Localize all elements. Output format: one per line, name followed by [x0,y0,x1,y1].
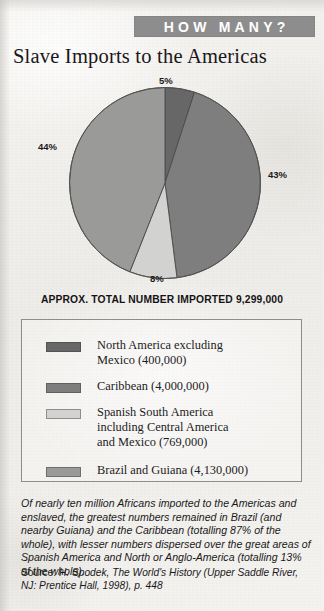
infographic-page: HOW MANY? Slave Imports to the Americas … [0,0,324,611]
legend-line-1: Caribbean (4,000,000) [97,379,209,393]
legend-box: North America excluding Mexico (400,000)… [21,319,302,482]
page-edge-shading-top [0,0,324,12]
legend-swatch-caribbean [46,383,81,393]
how-many-banner: HOW MANY? [134,16,315,37]
banner-label: HOW MANY? [160,20,290,34]
legend-item-north-america: North America excluding Mexico (400,000) [22,338,301,368]
legend-swatch-brazil-guiana [46,467,81,477]
pie-chart-figure: 5% 43% 8% 44% [0,70,324,290]
legend-line-1: Spanish South America [97,405,213,419]
legend-item-spanish-south-america: Spanish South America including Central … [22,405,301,450]
legend-line-3: and Mexico (769,000) [97,435,207,449]
legend-swatch-spanish-south-america [46,409,81,419]
pie-label-spanish-south-america: 8% [150,273,164,284]
legend-line-2: including Central America [97,420,228,434]
total-imported-line: APPROX. TOTAL NUMBER IMPORTED 9,299,000 [0,294,324,305]
legend-line-1: Brazil and Guiana (4,130,000) [97,463,248,477]
legend-swatch-north-america [46,342,81,352]
legend-line-2: Mexico (400,000) [97,353,186,367]
pie-chart-svg [68,86,262,280]
pie-label-brazil-guiana: 44% [38,141,57,152]
source-text: H. Spodek, The World's History (Upper Sa… [21,567,298,591]
page-title: Slave Imports to the Americas [13,45,267,68]
pie-label-north-america: 5% [159,75,173,86]
legend-label-caribbean: Caribbean (4,000,000) [97,379,209,394]
legend-line-1: North America excluding [97,338,223,352]
legend-label-north-america: North America excluding Mexico (400,000) [97,338,223,368]
source-label: Source: [21,567,56,578]
legend-label-brazil-guiana: Brazil and Guiana (4,130,000) [97,463,248,478]
legend-label-spanish-south-america: Spanish South America including Central … [97,405,228,450]
pie-label-caribbean: 43% [268,169,287,180]
pie-chart [68,86,262,280]
figure-source: Source: H. Spodek, The World's History (… [21,566,315,592]
legend-item-caribbean: Caribbean (4,000,000) [22,379,301,394]
legend-item-brazil-guiana: Brazil and Guiana (4,130,000) [22,463,301,478]
